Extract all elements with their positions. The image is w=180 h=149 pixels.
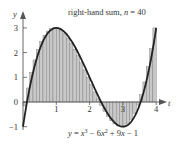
riemann-bar [50, 29, 53, 102]
y-tick-label: 3 [14, 23, 18, 33]
x-tick-label: 2 [87, 104, 91, 114]
x-tick-label: 1 [54, 104, 58, 114]
riemann-bar [60, 31, 63, 102]
riemann-sum-chart: −10123 1234 y t right-hand sum, n = 40 y… [0, 0, 180, 149]
function-label: y = x3 − 6x2 + 9x − 1 [67, 128, 138, 138]
x-tick-label: 4 [154, 104, 159, 114]
x-axis-label: t [168, 98, 171, 108]
riemann-bar [130, 102, 133, 119]
riemann-bar [116, 102, 119, 126]
x-axis-arrow-icon [159, 99, 167, 105]
riemann-bar [63, 34, 66, 102]
riemann-bar [76, 56, 79, 102]
riemann-bar [73, 49, 76, 102]
x-tick-label: 3 [121, 104, 125, 114]
chart-title: right-hand sum, n = 40 [68, 7, 146, 17]
y-axis-arrow-icon [20, 11, 26, 19]
y-tick-label: 2 [14, 48, 18, 58]
riemann-bar [53, 28, 56, 102]
riemann-bar [56, 29, 59, 102]
riemann-bar [83, 70, 86, 102]
riemann-bar [43, 35, 46, 102]
y-axis-label: y [12, 9, 17, 19]
riemann-bar [70, 43, 73, 102]
y-tick-label: −1 [9, 122, 18, 132]
riemann-bar [90, 85, 93, 102]
riemann-bar [46, 31, 49, 102]
riemann-bar [80, 63, 83, 102]
riemann-bar [93, 92, 96, 102]
riemann-bar [133, 102, 136, 113]
y-tick-label: 1 [14, 72, 18, 82]
riemann-bar [66, 38, 69, 102]
riemann-bar [86, 77, 89, 102]
y-tick-label: 0 [14, 97, 18, 107]
riemann-bar [126, 102, 129, 124]
